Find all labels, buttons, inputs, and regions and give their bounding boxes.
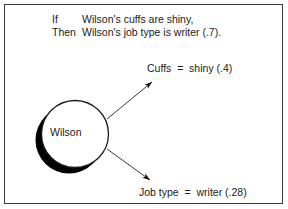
node-label-wilson: Wilson — [50, 126, 82, 138]
label-cuffs-shiny: Cuffs = shiny (.4) — [147, 62, 232, 74]
edge-to-job-type — [107, 149, 150, 180]
label-job-type-writer: Job type = writer (.28) — [139, 186, 247, 198]
edge-to-cuffs — [107, 82, 152, 119]
diagram-figure: If Wilson's cuffs are shiny, Then Wilson… — [0, 0, 288, 209]
diagram-canvas — [0, 0, 288, 209]
